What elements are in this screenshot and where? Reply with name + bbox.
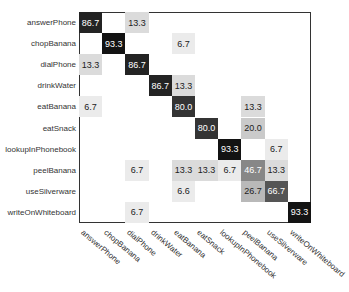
row-label: eatBanana [37,96,76,117]
matrix-cell: 93.3 [102,33,125,54]
matrix-cell: 13.3 [241,96,264,117]
row-label: lookupInPhonebook [5,139,76,160]
matrix-cell: 6.7 [265,139,288,160]
matrix-cell: 93.3 [218,139,241,160]
matrix-cell: 6.7 [218,160,241,181]
matrix-cell: 6.7 [125,160,148,181]
row-label: writeOnWhiteboard [8,202,76,223]
matrix-cell: 13.3 [172,75,195,96]
matrix-cell: 13.3 [195,160,218,181]
row-label: useSilverware [26,181,76,202]
matrix-cell: 20.0 [241,118,264,139]
matrix-cell: 86.7 [125,54,148,75]
row-label: dialPhone [40,54,76,75]
matrix-cell: 26.7 [241,181,264,202]
matrix-cell: 86.7 [149,75,172,96]
matrix-cell: 80.0 [172,96,195,117]
row-label: eatSnack [43,118,76,139]
matrix-cell: 6.7 [125,202,148,223]
matrix-cell: 13.3 [125,12,148,33]
matrix-cell: 46.7 [241,160,264,181]
row-label: peelBanana [33,160,76,181]
matrix-cell: 13.3 [79,54,102,75]
matrix-cell: 6.6 [172,181,195,202]
matrix-cell: 13.3 [265,160,288,181]
matrix-frame: 86.713.393.36.713.386.786.713.36.780.013… [79,12,311,223]
confusion-matrix-chart: answerPhonechopBananadialPhonedrinkWater… [0,0,349,292]
matrix-cell: 86.7 [79,12,102,33]
row-label: drinkWater [38,75,76,96]
row-label: answerPhone [27,12,76,33]
matrix-cell: 80.0 [195,118,218,139]
matrix-cell: 6.7 [79,96,102,117]
matrix-cell: 6.7 [172,33,195,54]
row-label: chopBanana [31,33,76,54]
matrix-cell: 66.7 [265,181,288,202]
matrix-cell: 93.3 [288,202,311,223]
matrix-cell: 13.3 [172,160,195,181]
